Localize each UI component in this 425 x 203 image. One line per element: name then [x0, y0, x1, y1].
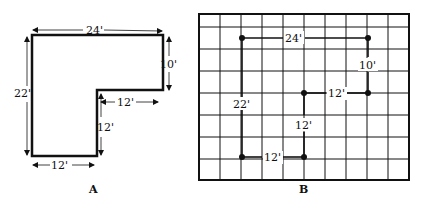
dimension-label: 22' [14, 87, 31, 100]
grid-label-top: 24' [285, 32, 302, 45]
grid-label-bottom: 12' [264, 151, 281, 164]
dimension-label: 24' [86, 24, 103, 37]
corner-dot [239, 35, 245, 41]
grid-label-inner-vertical: 12' [295, 119, 312, 132]
dimension-label: 12' [117, 96, 134, 109]
dimension-inner-horizontal: 12' [101, 96, 158, 109]
plotted-outline [242, 38, 368, 157]
dimension-bottom: 12' [33, 159, 94, 172]
grid-label-inner-horizontal: 12' [328, 87, 345, 100]
corner-dot [239, 154, 245, 160]
panel-a-caption: A [88, 183, 98, 196]
corner-dot [301, 90, 307, 96]
corner-points [239, 35, 371, 160]
dimension-label: 10' [160, 58, 177, 71]
dimension-left: 22' [14, 37, 31, 155]
grid-label-left: 22' [233, 98, 250, 111]
corner-dot [365, 90, 371, 96]
panel-b-caption: B [299, 183, 308, 196]
l-shape-outline [32, 35, 163, 156]
corner-dot [301, 154, 307, 160]
panel-b: 24' 10' 22' 12' 12' 12' B [199, 14, 409, 196]
panel-a: 24' 10' 22' 12' 12' [14, 24, 177, 196]
corner-dot [365, 35, 371, 41]
grid-label-right: 10' [359, 59, 376, 72]
floor-plan-figure: 24' 10' 22' 12' 12' [0, 0, 425, 203]
dimension-inner-vertical: 12' [97, 94, 114, 155]
dimension-label: 12' [97, 121, 114, 134]
grid-labels: 24' 10' 22' 12' 12' 12' [232, 31, 378, 164]
dimension-label: 12' [51, 159, 68, 172]
